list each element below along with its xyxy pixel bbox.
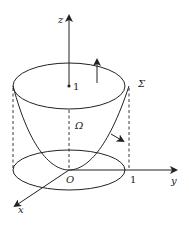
- radius-tick-label: 1: [130, 174, 136, 185]
- height-point: [67, 84, 70, 87]
- side-normal-arrow: [111, 134, 123, 141]
- y-axis-label: y: [170, 175, 177, 186]
- z-axis-label: z: [57, 14, 64, 25]
- region-label: Ω: [74, 120, 83, 131]
- surface-label: Σ: [137, 78, 146, 89]
- x-axis-label: x: [18, 204, 24, 215]
- x-axis: [15, 170, 69, 206]
- origin-label: O: [66, 174, 74, 185]
- diagram-canvas: z 1 Σ Ω O 1 y x: [0, 0, 189, 227]
- height-tick-label: 1: [73, 81, 79, 92]
